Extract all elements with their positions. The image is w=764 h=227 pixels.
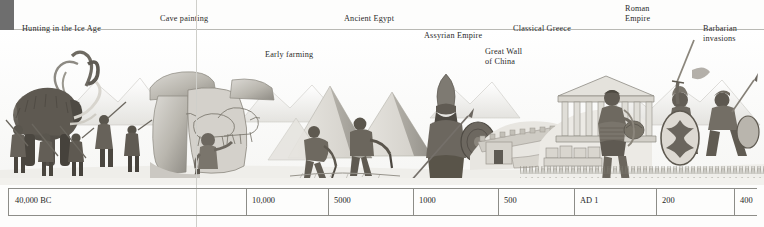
- label-great-wall-china: Great Wall of China: [485, 47, 522, 66]
- timeline-page: Hunting in the Ice Age Cave painting Ear…: [0, 0, 764, 227]
- axis-tick-200: 200: [656, 189, 657, 215]
- axis-tick-10000: 10,000: [246, 189, 247, 215]
- axis-tick-label: 1000: [419, 196, 436, 205]
- label-barbarian-invasions: Barbarian invasions: [703, 24, 737, 43]
- illustration-band: [0, 30, 764, 185]
- label-early-farming: Early farming: [265, 50, 313, 60]
- label-hunting-ice-age: Hunting in the Ice Age: [22, 24, 101, 34]
- axis-tick-label: 200: [662, 196, 675, 205]
- axis-tick-400: 400: [734, 189, 735, 215]
- axis-tick-500: 500: [498, 189, 499, 215]
- label-assyrian-empire: Assyrian Empire: [424, 31, 482, 41]
- axis-tick-label: 10,000: [252, 196, 275, 205]
- page-corner-artifact: [0, 0, 14, 30]
- axis-tick-label: 400: [740, 196, 753, 205]
- axis-tick-1000: 1000: [413, 189, 414, 215]
- label-classical-greece: Classical Greece: [513, 24, 571, 34]
- axis-tick-label: 500: [504, 196, 517, 205]
- label-ancient-egypt: Ancient Egypt: [344, 14, 394, 24]
- axis-tick-5000: 5000: [328, 189, 329, 215]
- axis-start-label: 40,000 BC: [15, 196, 51, 205]
- axis-tick-label: AD 1: [580, 196, 598, 205]
- label-cave-painting: Cave painting: [160, 14, 208, 24]
- axis-tick-ad1: AD 1: [574, 189, 575, 215]
- axis-tick-label: 5000: [334, 196, 351, 205]
- timeline-axis: 40,000 BC 10,000 5000 1000 500 AD 1 200 …: [8, 188, 757, 216]
- label-roman-empire: Roman Empire: [625, 4, 650, 23]
